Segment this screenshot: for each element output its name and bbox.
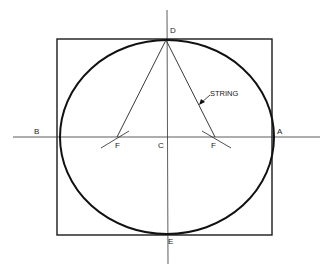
label-string: STRING (210, 89, 239, 98)
label-e: E (168, 237, 173, 246)
label-b: B (34, 127, 39, 136)
label-f-left: F (115, 141, 120, 150)
label-a: A (277, 127, 283, 136)
label-f-right: F (211, 141, 216, 150)
label-c: C (158, 141, 164, 150)
label-d: D (170, 26, 176, 35)
ellipse-diagram: D B A C F F E STRING (0, 0, 332, 272)
